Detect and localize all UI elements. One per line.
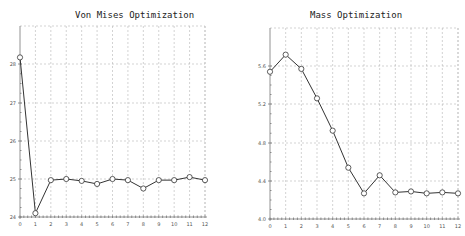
data-point-marker [283,52,288,57]
x-tick-label: 0 [18,221,21,227]
data-point-marker [314,96,319,101]
mass-chart: Mass Optimization01234567891011124.04.44… [235,0,465,236]
von-mises-plot: Von Mises Optimization012345678910111224… [0,0,235,236]
x-tick-label: 10 [423,223,429,229]
data-point-marker [64,176,69,181]
data-point-marker [79,178,84,183]
y-tick-label: 27 [10,100,16,106]
data-point-marker [187,175,192,180]
x-tick-label: 9 [409,223,412,229]
data-point-marker [156,178,161,183]
y-tick-label: 26 [10,138,16,144]
x-tick-label: 8 [142,221,145,227]
data-point-marker [202,178,207,183]
x-tick-label: 12 [455,223,461,229]
y-tick-label: 5.2 [258,101,266,107]
mass-plot: Mass Optimization01234567891011124.04.44… [235,0,465,236]
x-tick-label: 7 [378,223,381,229]
data-point-marker [440,190,445,195]
data-point-marker [330,128,335,133]
data-point-marker [48,178,53,183]
data-point-marker [110,176,115,181]
x-tick-label: 8 [394,223,397,229]
data-point-marker [361,191,366,196]
x-tick-label: 12 [202,221,208,227]
x-tick-label: 10 [171,221,177,227]
data-point-marker [17,55,22,60]
x-tick-label: 3 [65,221,68,227]
x-tick-label: 2 [49,221,52,227]
chart-title: Mass Optimization [310,10,402,20]
x-tick-label: 11 [186,221,192,227]
x-tick-label: 6 [111,221,114,227]
y-tick-label: 4.8 [258,140,266,146]
grid [270,28,458,219]
data-point-marker [33,211,38,216]
y-tick-label: 25 [10,176,16,182]
chart-title: Von Mises Optimization [75,10,194,20]
axes [20,26,207,219]
data-point-marker [455,191,460,196]
x-tick-label: 1 [34,221,37,227]
x-tick-label: 2 [300,223,303,229]
x-tick-label: 9 [157,221,160,227]
x-tick-label: 5 [95,221,98,227]
x-tick-label: 11 [439,223,445,229]
data-point-marker [377,173,382,178]
x-tick-label: 3 [315,223,318,229]
x-tick-labels: 0123456789101112 [268,223,461,229]
data-point-marker [94,181,99,186]
x-tick-label: 0 [268,223,271,229]
data-point-marker [267,69,272,74]
data-point-marker [125,178,130,183]
x-tick-label: 4 [80,221,83,227]
grid [20,26,205,217]
data-point-marker [346,165,351,170]
x-tick-label: 6 [362,223,365,229]
data-point-marker [424,191,429,196]
data-point-marker [393,190,398,195]
x-tick-label: 4 [331,223,334,229]
x-tick-label: 1 [284,223,287,229]
y-tick-label: 4.4 [258,178,266,184]
y-tick-label: 28 [10,61,16,67]
x-tick-label: 5 [347,223,350,229]
x-tick-label: 7 [126,221,129,227]
y-tick-label: 24 [10,214,16,220]
data-point-marker [408,189,413,194]
y-tick-label: 4.0 [258,216,266,222]
von-mises-chart: Von Mises Optimization012345678910111224… [0,0,235,236]
data-point-marker [141,186,146,191]
data-point-marker [299,66,304,71]
y-tick-label: 5.6 [258,63,266,69]
x-tick-labels: 0123456789101112 [18,221,208,227]
data-point-marker [172,178,177,183]
